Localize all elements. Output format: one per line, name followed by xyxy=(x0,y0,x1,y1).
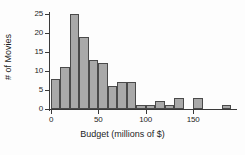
y-axis-tick xyxy=(45,109,49,110)
histogram-bar xyxy=(79,37,88,109)
histogram-bar xyxy=(193,98,202,109)
histogram-bar xyxy=(127,82,136,109)
x-axis-tick xyxy=(98,110,99,114)
x-axis-tick xyxy=(146,110,147,114)
x-axis-tick-label: 100 xyxy=(134,115,158,124)
histogram-bar xyxy=(146,105,155,109)
x-axis-tick xyxy=(193,110,194,114)
histogram-bar xyxy=(60,67,69,109)
y-axis-tick xyxy=(45,71,49,72)
y-axis-tick-label: 25 xyxy=(21,9,43,18)
x-axis-line xyxy=(49,109,237,110)
histogram-bar xyxy=(155,101,164,109)
y-axis-tick-label: 20 xyxy=(21,28,43,37)
y-axis-tick xyxy=(45,52,49,53)
histogram-figure: 0510152025 050100150 Budget (millions of… xyxy=(0,0,245,155)
histogram-bar xyxy=(117,82,126,109)
y-axis-tick xyxy=(45,33,49,34)
y-axis-tick-label: 0 xyxy=(21,104,43,113)
x-axis-tick xyxy=(51,110,52,114)
histogram-bar xyxy=(165,105,174,109)
y-axis-line xyxy=(49,12,50,111)
x-axis-tick-label: 50 xyxy=(86,115,110,124)
x-axis-tick-label: 0 xyxy=(39,115,63,124)
histogram-bar xyxy=(98,63,107,109)
histogram-bar xyxy=(108,86,117,109)
x-axis-title: Budget (millions of $) xyxy=(0,129,245,139)
x-axis-tick-label: 150 xyxy=(181,115,205,124)
histogram-bar xyxy=(51,79,60,109)
histogram-bar xyxy=(222,105,231,109)
plot-area xyxy=(51,14,231,109)
y-axis-tick xyxy=(45,90,49,91)
histogram-bar xyxy=(174,98,183,109)
y-axis-title: # of Movies xyxy=(3,15,13,99)
y-axis-tick-label: 10 xyxy=(21,66,43,75)
histogram-bar xyxy=(89,60,98,109)
y-axis-tick xyxy=(45,14,49,15)
y-axis-tick-label: 15 xyxy=(21,47,43,56)
y-axis-tick-label: 5 xyxy=(21,85,43,94)
histogram-bar xyxy=(70,14,79,109)
histogram-bar xyxy=(136,105,145,109)
